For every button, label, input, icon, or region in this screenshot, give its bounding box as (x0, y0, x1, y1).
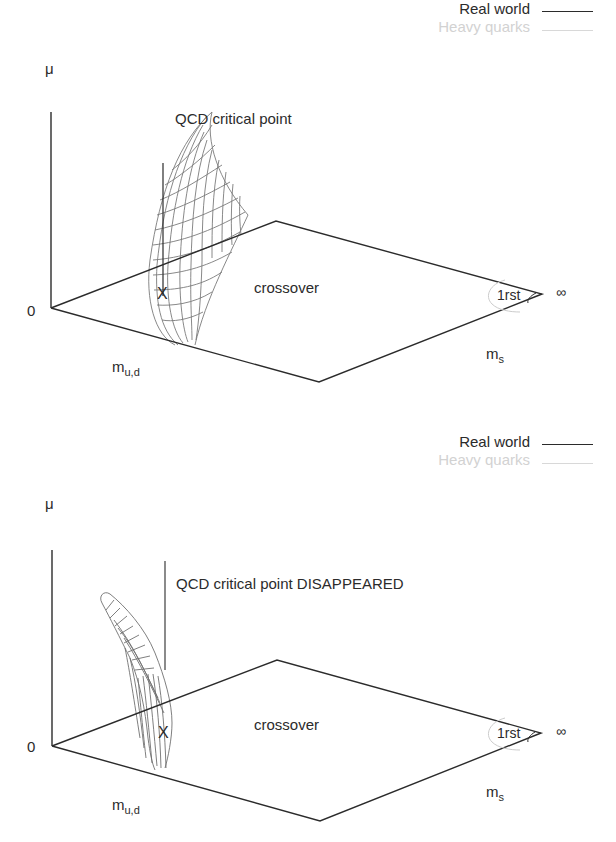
axis-mud-label: mu,d (112, 796, 140, 813)
phase-diagram-bottom: Real world Heavy quarks μ QCD critical p… (0, 438, 616, 842)
infinity-label: ∞ (556, 284, 566, 300)
axis-ms-label: ms (486, 783, 504, 800)
legend-real-world-label: Real world (459, 433, 530, 450)
diagram-graphics (0, 0, 616, 420)
critical-point-label: QCD critical point DISAPPEARED (176, 575, 404, 592)
infinity-label: ∞ (556, 723, 566, 739)
legend-heavy-quarks-line (542, 463, 593, 464)
critical-point-marker: X (157, 285, 168, 303)
legend-heavy-quarks-label: Heavy quarks (438, 18, 530, 35)
axis-ms-label: ms (486, 345, 504, 362)
phase-diagram-top: Real world Heavy quarks μ QCD critical p… (0, 0, 616, 420)
legend-heavy-quarks-label: Heavy quarks (438, 451, 530, 468)
origin-label: 0 (27, 302, 35, 319)
critical-surface-mesh (149, 112, 248, 345)
critical-point-marker: X (158, 724, 169, 742)
origin-label: 0 (27, 738, 35, 755)
legend-real-world-line (542, 11, 593, 12)
axis-mu-label: μ (45, 495, 54, 512)
first-order-label: 1rst (497, 287, 520, 303)
axis-mud-label: mu,d (112, 358, 140, 375)
critical-point-label: QCD critical point (175, 110, 292, 127)
crossover-label: crossover (254, 279, 319, 296)
mass-plane (51, 112, 542, 382)
critical-surface-mesh (101, 593, 172, 770)
legend-real-world-label: Real world (459, 0, 530, 17)
legend-real-world-line (542, 444, 593, 445)
crossover-label: crossover (254, 716, 319, 733)
diagram-graphics (0, 438, 616, 842)
first-order-label: 1rst (497, 725, 520, 741)
axis-mu-label: μ (45, 60, 54, 77)
legend-heavy-quarks-line (542, 30, 593, 31)
